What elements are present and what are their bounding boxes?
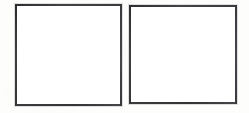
image-canvas — [0, 0, 249, 113]
right-square-edge-right — [235, 5, 237, 104]
left-square-edge-right — [120, 4, 122, 106]
left-square-interior — [17, 6, 120, 104]
left-square-edge-top — [15, 4, 122, 6]
left-square-edge-bottom — [15, 104, 122, 106]
right-square-edge-left — [129, 5, 131, 104]
right-square-interior — [131, 7, 235, 102]
right-square-edge-top — [129, 5, 237, 7]
left-square-edge-left — [15, 4, 17, 106]
right-square-edge-bottom — [129, 102, 237, 104]
left-square[interactable] — [15, 4, 122, 106]
right-square[interactable] — [129, 5, 237, 104]
